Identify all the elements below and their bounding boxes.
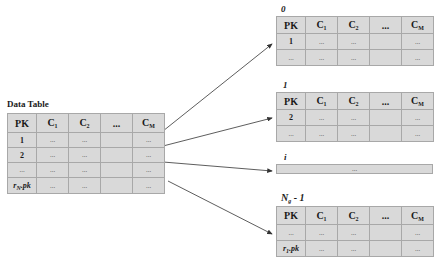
source-table-title: Data Table: [7, 99, 49, 109]
cell: [101, 163, 133, 178]
header-cm: CM: [133, 114, 165, 133]
table-row: 1 ... ... ...: [8, 133, 165, 148]
cell: [101, 148, 133, 163]
cell: [370, 225, 402, 241]
header-cm: CM: [402, 207, 434, 225]
table-row: r1.pk ... ... ...: [277, 241, 434, 257]
cell: ...: [37, 163, 69, 178]
cell: [101, 178, 133, 194]
header-cm: CM: [402, 17, 434, 34]
cell: [370, 34, 402, 50]
arrow-row3-to-partition-i: [163, 162, 272, 171]
cell: ...: [133, 148, 165, 163]
cell: ...: [69, 148, 101, 163]
cell: ...: [338, 110, 370, 126]
partition-i-collapsed: ...: [276, 164, 433, 174]
cell: ...: [306, 34, 338, 50]
cell: [370, 126, 402, 142]
cell: 2: [8, 148, 37, 163]
cell: ...: [277, 50, 306, 66]
table-row: ... ... ... ...: [8, 163, 165, 178]
cell: ...: [69, 178, 101, 194]
arrow-row2-to-partition-1: [163, 118, 272, 146]
cell: ...: [402, 126, 434, 142]
cell: ...: [338, 34, 370, 50]
cell: ...: [306, 110, 338, 126]
partition-i-label: i: [284, 152, 287, 162]
table-row: rN.pk ... ... ...: [8, 178, 165, 194]
header-cm: CM: [402, 93, 434, 110]
cell: ...: [402, 50, 434, 66]
header-c1: C1: [306, 207, 338, 225]
header-pk: PK: [277, 93, 306, 110]
header-c2: C2: [338, 17, 370, 34]
header-ellipsis: ...: [370, 93, 402, 110]
cell: ...: [338, 225, 370, 241]
cell: 1: [277, 34, 306, 50]
table-row: 1 ... ... ...: [277, 34, 434, 50]
table-row: 2 ... ... ...: [277, 110, 434, 126]
partition-last-label: Ng - 1: [281, 192, 305, 204]
header-pk: PK: [277, 17, 306, 34]
cell: ...: [306, 225, 338, 241]
cell: ...: [277, 126, 306, 142]
cell: ...: [133, 163, 165, 178]
cell-r1-pk: r1.pk: [277, 241, 306, 257]
cell: [370, 50, 402, 66]
cell: ...: [8, 163, 37, 178]
partition-1-label: 1: [283, 80, 288, 90]
source-table: PK C1 C2 ... CM 1 ... ... ... 2 ... ... …: [7, 113, 165, 194]
header-c1: C1: [306, 93, 338, 110]
cell: ...: [338, 126, 370, 142]
header-ellipsis: ...: [370, 207, 402, 225]
cell: [370, 110, 402, 126]
cell: ...: [133, 133, 165, 148]
cell: ...: [402, 241, 434, 257]
header-c2: C2: [338, 93, 370, 110]
header-c2: C2: [69, 114, 101, 133]
cell: ...: [277, 225, 306, 241]
header-pk: PK: [277, 207, 306, 225]
cell: ...: [402, 34, 434, 50]
cell: ...: [69, 133, 101, 148]
arrow-row1-to-partition-0: [163, 44, 272, 131]
header-c1: C1: [306, 17, 338, 34]
table-row: 2 ... ... ...: [8, 148, 165, 163]
cell: ...: [69, 163, 101, 178]
header-c1: C1: [37, 114, 69, 133]
cell: [101, 133, 133, 148]
header-ellipsis: ...: [101, 114, 133, 133]
partition-0-label: 0: [281, 4, 286, 14]
cell: ...: [402, 225, 434, 241]
cell: ...: [306, 50, 338, 66]
header-c2: C2: [338, 207, 370, 225]
cell: ...: [37, 133, 69, 148]
cell: ...: [133, 178, 165, 194]
arrow-rowN-to-partition-last: [168, 181, 272, 234]
cell: 1: [8, 133, 37, 148]
table-row: ... ... ... ...: [277, 225, 434, 241]
header-ellipsis: ...: [370, 17, 402, 34]
partition-1-table: PK C1 C2 ... CM 2 ... ... ... ... ... ..…: [276, 92, 434, 142]
table-row: ... ... ... ...: [277, 50, 434, 66]
table-row: ... ... ... ...: [277, 126, 434, 142]
cell: [370, 241, 402, 257]
cell: 2: [277, 110, 306, 126]
partition-0-table: PK C1 C2 ... CM 1 ... ... ... ... ... ..…: [276, 16, 434, 66]
header-pk: PK: [8, 114, 37, 133]
cell: ...: [306, 241, 338, 257]
cell: ...: [306, 126, 338, 142]
cell: ...: [402, 110, 434, 126]
cell: ...: [37, 178, 69, 194]
cell: ...: [338, 50, 370, 66]
cell-rn-pk: rN.pk: [8, 178, 37, 194]
partition-last-table: PK C1 C2 ... CM ... ... ... ... r1.pk ..…: [276, 206, 434, 257]
cell: ...: [37, 148, 69, 163]
cell: ...: [338, 241, 370, 257]
